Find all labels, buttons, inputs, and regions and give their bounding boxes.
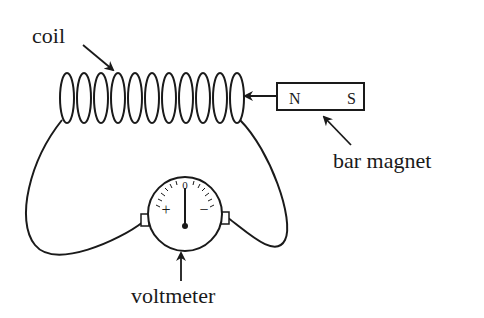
induction-diagram: 0 + − N S coil bar magnet voltmeter	[0, 0, 484, 318]
bar-magnet: N S	[277, 83, 364, 110]
coil-pointer-arrow	[83, 45, 113, 70]
bar-magnet-label: bar magnet	[333, 148, 431, 173]
voltmeter-plus-label: +	[161, 201, 170, 218]
voltmeter: 0 + −	[141, 177, 229, 251]
voltmeter-minus-label: −	[199, 201, 208, 218]
coil-label: coil	[32, 23, 65, 48]
voltmeter-zero-label: 0	[182, 179, 188, 191]
magnet-north-label: N	[289, 90, 301, 107]
voltmeter-label: voltmeter	[131, 283, 216, 308]
voltmeter-pivot	[182, 223, 188, 229]
magnet-pointer-arrow	[324, 117, 351, 145]
magnet-south-label: S	[347, 90, 356, 107]
coil	[60, 73, 244, 123]
